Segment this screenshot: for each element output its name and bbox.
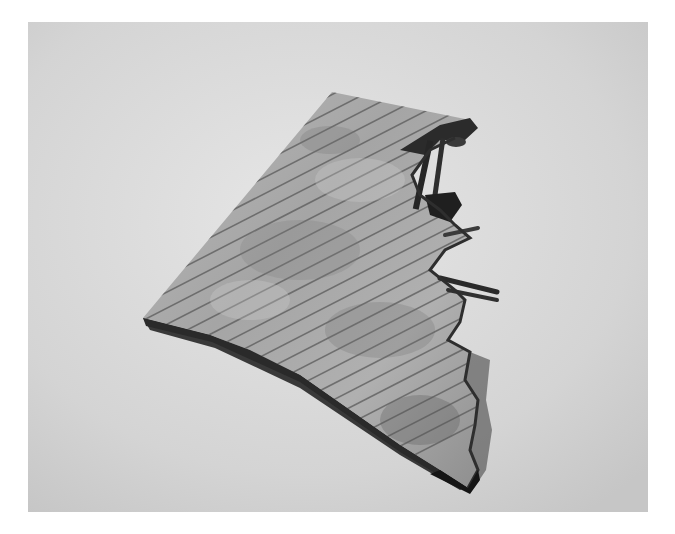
roof-model-illustration <box>28 22 648 512</box>
roof-model-photograph <box>28 22 648 512</box>
photo-frame <box>0 0 675 534</box>
